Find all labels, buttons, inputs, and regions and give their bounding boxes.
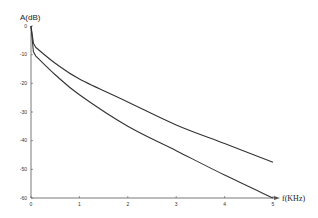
x-tick-label: 1	[78, 201, 81, 207]
y-tick-label: -50	[20, 166, 27, 172]
x-tick-label: 4	[223, 201, 226, 207]
y-tick-label: -60	[20, 195, 27, 201]
y-tick-label: -20	[20, 80, 27, 86]
x-tick-label: 2	[126, 201, 129, 207]
x-tick-label: 0	[30, 201, 33, 207]
axes	[31, 26, 280, 200]
y-tick-label: -40	[20, 137, 27, 143]
x-axis-arrow-icon	[274, 196, 280, 200]
series-line	[31, 26, 273, 162]
y-tick-label: -10	[20, 51, 27, 57]
y-axis-label: A(dB)	[20, 13, 41, 22]
x-tick-label: 5	[272, 201, 275, 207]
attenuation-chart: 0-10-20-30-40-50-60 012345 A(dB) f(KHz)	[0, 0, 318, 218]
x-tick-label: 3	[175, 201, 178, 207]
series-line	[31, 26, 273, 198]
x-axis-label: f(KHz)	[282, 194, 305, 203]
y-tick-label: 0	[24, 23, 27, 29]
y-tick-label: -30	[20, 109, 27, 115]
series-lines	[31, 26, 273, 198]
